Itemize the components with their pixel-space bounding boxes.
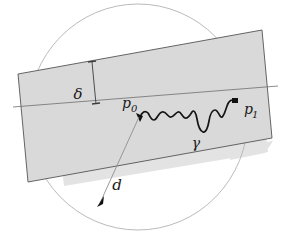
point-p0-label-base: p bbox=[122, 95, 131, 111]
delta-tick-bottom bbox=[92, 103, 100, 104]
geometry-figure: δ p 0 p 1 γ d bbox=[0, 0, 285, 233]
shaded-strip-group bbox=[13, 30, 278, 182]
point-p1-marker bbox=[232, 98, 238, 103]
point-p1-label-sub: 1 bbox=[252, 109, 258, 120]
curve-gamma-label: γ bbox=[192, 135, 201, 151]
radius-d-label: d bbox=[112, 176, 122, 194]
point-p0-label-sub: 0 bbox=[131, 103, 138, 114]
band-width-label: δ bbox=[73, 85, 82, 103]
radius-arrow-head bbox=[97, 196, 104, 207]
delta-tick-top bbox=[88, 61, 96, 62]
